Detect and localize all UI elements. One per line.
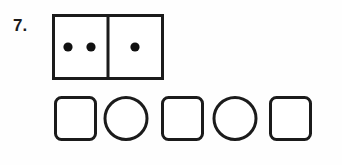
domino-dot-right-1 [130, 42, 139, 51]
shape-circle-1[interactable] [105, 98, 147, 140]
shape-row-svg [53, 95, 312, 142]
answer-shape-row [53, 95, 312, 142]
domino-figure [52, 14, 164, 80]
shape-square-1[interactable] [56, 98, 96, 140]
shape-circle-2[interactable] [214, 98, 256, 140]
domino-svg [52, 14, 164, 80]
shape-square-2[interactable] [163, 98, 203, 140]
shape-square-3[interactable] [271, 98, 311, 140]
domino-dot-left-2 [86, 42, 95, 51]
domino-dot-left-1 [63, 42, 72, 51]
worksheet-item: 7. [0, 0, 342, 165]
item-number-label: 7. [13, 17, 27, 34]
